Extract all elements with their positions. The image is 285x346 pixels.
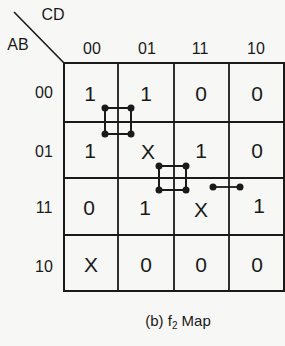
cell-ab11-cd00: 0 — [83, 197, 95, 218]
row-header: 10 — [35, 259, 53, 275]
cell-ab01-cd10: 0 — [251, 140, 263, 161]
cell-ab10-cd11: 0 — [195, 254, 207, 275]
col-header: 01 — [138, 41, 156, 57]
figure-caption: (b) f2 Map — [145, 312, 211, 331]
connector-bar — [210, 184, 244, 191]
cell-ab11-cd11: X — [194, 199, 208, 220]
col-header: 00 — [83, 41, 101, 57]
col-header: 11 — [192, 41, 209, 57]
caption-suffix: Map — [177, 312, 210, 329]
cell-ab10-cd01: 0 — [140, 254, 152, 275]
cell-ab00-cd11: 0 — [195, 83, 207, 104]
row-variable-label: AB — [7, 37, 28, 53]
row-header: 01 — [35, 144, 53, 160]
cell-ab00-cd10: 0 — [251, 83, 263, 104]
cell-ab01-cd01: X — [141, 141, 155, 162]
col-variable-label: CD — [41, 7, 64, 23]
cell-ab01-cd11: 1 — [195, 140, 207, 161]
row-header: 11 — [36, 200, 53, 216]
cell-ab11-cd01: 1 — [139, 197, 151, 218]
row-header: 00 — [35, 85, 53, 101]
cell-ab10-cd10: 0 — [251, 254, 263, 275]
cell-ab10-cd00: X — [84, 254, 98, 275]
col-header: 10 — [247, 41, 265, 57]
cell-ab00-cd00: 1 — [84, 83, 96, 104]
cell-ab11-cd10: 1 — [253, 195, 265, 216]
caption-prefix: (b) f — [145, 312, 172, 329]
cell-ab00-cd01: 1 — [140, 83, 152, 104]
cell-ab01-cd00: 1 — [84, 140, 96, 161]
